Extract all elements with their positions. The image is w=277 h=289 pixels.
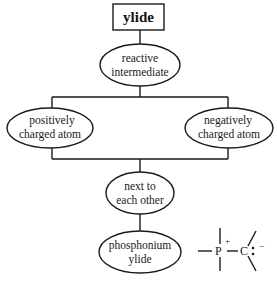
lone-pair-dot-top [252, 247, 255, 250]
node-adjacent-line1: next to [124, 180, 156, 192]
ylide-concept-map: ylide reactive intermediate positively c… [0, 0, 277, 289]
node-negatively-charged-atom: negatively charged atom [185, 108, 273, 148]
node-reactive-line2: intermediate [111, 66, 168, 78]
node-phosphonium-ylide: phosphonium ylide [99, 231, 181, 273]
node-next-to-each-other: next to each other [106, 172, 174, 214]
phosphorus-atom: P [215, 244, 222, 258]
phosphonium-ylide-structure: P + C − [198, 228, 264, 271]
node-positive-line2: charged atom [19, 128, 81, 141]
node-reactive-line1: reactive [122, 52, 158, 64]
node-phosphonium-line2: ylide [129, 253, 152, 266]
node-ylide: ylide [113, 4, 164, 30]
node-adjacent-line2: each other [116, 194, 164, 206]
node-negative-line1: negatively [204, 114, 252, 127]
node-positively-charged-atom: positively charged atom [7, 108, 93, 148]
node-reactive-intermediate: reactive intermediate [100, 44, 180, 86]
carbon-atom: C [240, 244, 248, 258]
node-negative-line2: charged atom [198, 128, 260, 141]
node-positive-line1: positively [29, 114, 75, 127]
node-phosphonium-line1: phosphonium [109, 239, 172, 252]
lone-pair-dot-bottom [252, 253, 255, 256]
node-ylide-label: ylide [123, 9, 154, 25]
positive-charge: + [225, 236, 230, 246]
negative-charge: − [259, 241, 264, 251]
